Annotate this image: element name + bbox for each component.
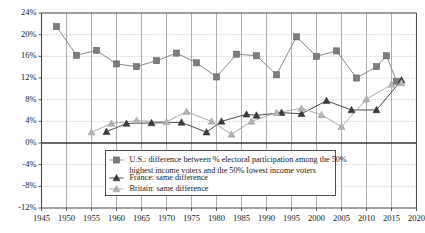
- x-tick-label: 1965: [133, 213, 150, 223]
- line-chart: -12%-8%-4%0%4%8%12%16%20%24% 19451950195…: [0, 0, 425, 233]
- data-point-marker: [293, 34, 299, 40]
- series-lines: [57, 27, 402, 135]
- x-tick-label: 2000: [308, 213, 325, 223]
- x-tick-label: 1995: [283, 213, 300, 223]
- data-point-marker: [53, 23, 59, 29]
- data-point-marker: [88, 129, 95, 135]
- data-point-marker: [233, 51, 239, 57]
- x-tick-label: 1945: [33, 213, 50, 223]
- data-point-marker: [203, 129, 210, 135]
- data-point-marker: [333, 48, 339, 54]
- y-tick-label: -12%: [18, 202, 36, 212]
- x-tick-label: 1990: [258, 213, 275, 223]
- y-tick-label: 24%: [21, 7, 37, 17]
- series-line-2: [92, 83, 402, 134]
- data-point-marker: [253, 53, 259, 59]
- data-point-marker: [373, 64, 379, 70]
- data-point-marker: [193, 60, 199, 66]
- data-point-marker: [353, 75, 359, 81]
- data-point-marker: [113, 61, 119, 67]
- data-point-marker: [313, 53, 319, 59]
- x-tick-label: 1970: [158, 213, 175, 223]
- legend-label: U.S.: difference between % electoral par…: [130, 155, 347, 164]
- x-tick-label: 1985: [233, 213, 250, 223]
- y-tick-label: 12%: [21, 72, 37, 82]
- x-tick-label: 1955: [83, 213, 100, 223]
- data-point-marker: [133, 64, 139, 70]
- data-point-marker: [73, 52, 79, 58]
- data-point-marker: [213, 74, 219, 80]
- y-tick-label: 0%: [25, 137, 36, 147]
- data-point-marker: [153, 58, 159, 64]
- data-point-marker: [228, 131, 235, 137]
- x-tick-label: 2010: [358, 213, 375, 223]
- x-tick-label: 2015: [383, 213, 400, 223]
- chart-legend: U.S.: difference between % electoral par…: [106, 151, 347, 196]
- data-point-marker: [183, 108, 190, 114]
- data-point-marker: [298, 105, 305, 111]
- data-point-marker: [243, 111, 250, 117]
- y-tick-label: 8%: [25, 94, 36, 104]
- legend-square-marker-icon: [113, 157, 119, 163]
- data-point-marker: [93, 47, 99, 53]
- data-point-marker: [323, 97, 330, 103]
- chart-container: -12%-8%-4%0%4%8%12%16%20%24% 19451950195…: [0, 0, 425, 233]
- x-tick-label: 2020: [408, 213, 425, 223]
- x-tick-label: 1960: [108, 213, 125, 223]
- y-tick-label: -8%: [22, 180, 36, 190]
- y-tick-label: 4%: [25, 115, 36, 125]
- y-tick-label: -4%: [22, 159, 36, 169]
- data-point-marker: [103, 128, 110, 134]
- x-tick-label: 1975: [183, 213, 200, 223]
- legend-label: Britain: same difference: [130, 184, 209, 193]
- data-point-marker: [383, 53, 389, 59]
- series-markers: [53, 23, 405, 137]
- x-tick-label: 2005: [333, 213, 350, 223]
- y-tick-label: 16%: [21, 50, 37, 60]
- data-point-marker: [208, 118, 215, 124]
- legend-label: France: same difference: [130, 173, 209, 182]
- data-point-marker: [273, 72, 279, 78]
- y-axis-tick-labels: -12%-8%-4%0%4%8%12%16%20%24%: [18, 7, 36, 212]
- x-tick-label: 1980: [208, 213, 225, 223]
- data-point-marker: [363, 96, 370, 102]
- y-tick-label: 20%: [21, 29, 37, 39]
- x-tick-label: 1950: [58, 213, 75, 223]
- data-point-marker: [173, 50, 179, 56]
- x-axis-tick-labels: 1945195019551960196519701975198019851990…: [33, 213, 425, 223]
